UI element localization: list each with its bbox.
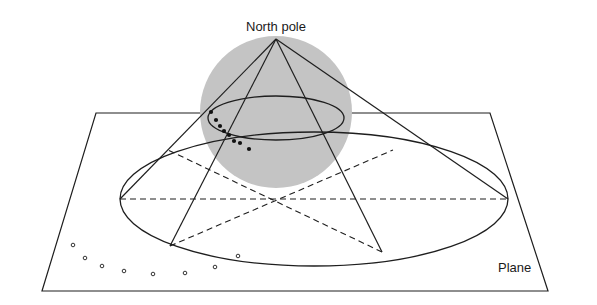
sphere-shape: [200, 36, 352, 188]
plane-dot: [71, 243, 75, 247]
plane-dot: [236, 254, 240, 258]
sphere-dot: [209, 110, 213, 114]
sphere-dot: [247, 147, 251, 151]
sphere-dot: [218, 124, 222, 128]
plane-dot: [122, 269, 126, 273]
plane-dot: [151, 272, 155, 276]
plane-label: Plane: [498, 260, 531, 275]
north-pole-label: North pole: [246, 19, 306, 34]
sphere-dot: [222, 129, 226, 133]
plane-dots: [71, 243, 240, 276]
sphere-dot: [214, 118, 218, 122]
plane-dot: [83, 256, 87, 260]
plane-dot: [100, 264, 104, 268]
sphere-dot: [227, 133, 231, 137]
sphere-dot: [232, 139, 236, 143]
stereographic-projection-diagram: North pole Plane: [0, 0, 597, 305]
diagram-canvas: North pole Plane: [0, 0, 597, 305]
sphere-dot: [238, 141, 242, 145]
plane-dot: [183, 271, 187, 275]
plane-dot: [213, 265, 217, 269]
